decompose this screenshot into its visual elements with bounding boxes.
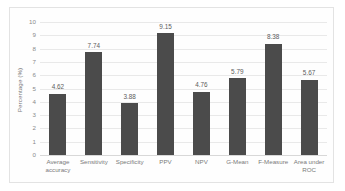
bar-group: 7.74 — [76, 22, 112, 155]
bar-value-label: 8.38 — [267, 34, 279, 40]
bar-group: 4.62 — [40, 22, 76, 155]
bar-group: 4.76 — [184, 22, 220, 155]
x-axis-tick-label: Sensitivity — [76, 158, 112, 174]
bar-value-label: 7.74 — [88, 43, 100, 49]
bar-group: 5.79 — [219, 22, 255, 155]
bar-value-label: 5.67 — [303, 70, 315, 76]
x-axis-tick-label: NPV — [184, 158, 220, 174]
x-axis-tick-label: Average accuracy — [40, 158, 76, 174]
bar[interactable] — [229, 78, 246, 155]
x-axis-tick-label: PPV — [148, 158, 184, 174]
bar[interactable] — [301, 80, 318, 155]
y-axis-tick-label: 2 — [33, 125, 36, 131]
y-axis-title-text: Percentage (%) — [16, 34, 23, 146]
bar-group: 3.88 — [112, 22, 148, 155]
bar[interactable] — [49, 94, 66, 155]
plot-area: 109876543210 4.627.743.889.154.765.798.3… — [40, 22, 327, 155]
bar[interactable] — [85, 52, 102, 155]
y-axis-tick-label: 8 — [33, 45, 36, 51]
bar-group: 5.67 — [291, 22, 327, 155]
x-axis-tick-label: G-Mean — [219, 158, 255, 174]
bar-group: 9.15 — [148, 22, 184, 155]
bar[interactable] — [193, 92, 210, 155]
y-axis-tick-label: 0 — [33, 152, 36, 158]
bar[interactable] — [157, 33, 174, 155]
y-axis-title: Percentage (%) — [16, 0, 26, 34]
bar-value-label: 5.79 — [231, 69, 243, 75]
y-axis-tick-label: 7 — [33, 59, 36, 65]
x-axis-tick-label: Specificity — [112, 158, 148, 174]
bar-value-label: 3.88 — [123, 94, 135, 100]
chart-figure: Percentage (%) 109876543210 4.627.743.88… — [9, 7, 334, 183]
bar-series: 4.627.743.889.154.765.798.385.67 — [40, 22, 327, 155]
x-axis-tick-label: F-Measure — [255, 158, 291, 174]
y-axis-tick-label: 5 — [33, 85, 36, 91]
x-axis-labels: Average accuracySensitivitySpecificityPP… — [40, 158, 327, 174]
y-axis-tick-label: 6 — [33, 72, 36, 78]
y-axis-tick-label: 4 — [33, 99, 36, 105]
y-axis-tick-label: 10 — [29, 19, 36, 25]
y-axis-tick-label: 3 — [33, 112, 36, 118]
gridline: 0 — [40, 155, 327, 156]
bar[interactable] — [121, 103, 138, 155]
y-axis-tick-label: 1 — [33, 139, 36, 145]
y-axis-tick-label: 9 — [33, 32, 36, 38]
bar-value-label: 4.62 — [52, 84, 64, 90]
bar-group: 8.38 — [255, 22, 291, 155]
bar-value-label: 4.76 — [195, 82, 207, 88]
x-axis-tick-label: Area under ROC — [291, 158, 327, 174]
bar-value-label: 9.15 — [159, 24, 171, 30]
bar[interactable] — [265, 44, 282, 155]
